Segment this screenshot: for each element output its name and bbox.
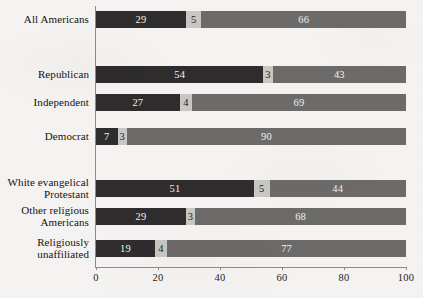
x-axis-tick-mark (158, 267, 159, 270)
bar-row: 19477 (96, 240, 406, 257)
category-label: Republican (38, 69, 89, 81)
bar-segment: 54 (96, 66, 263, 83)
bar-segment: 27 (96, 94, 180, 111)
bar-segment: 3 (263, 66, 272, 83)
bar-row: 7390 (96, 128, 406, 145)
y-axis-line (95, 6, 96, 268)
x-axis-tick-label: 40 (215, 272, 226, 283)
x-axis-tick-label: 80 (339, 272, 350, 283)
bar-row: 29566 (96, 11, 406, 28)
x-axis-tick-mark (282, 267, 283, 270)
bar-segment: 66 (201, 11, 406, 28)
category-label: Independent (34, 97, 89, 109)
bar-segment: 44 (270, 180, 406, 197)
x-axis-tick-mark (406, 267, 407, 270)
bar-segment: 19 (96, 240, 155, 257)
bar-segment: 29 (96, 208, 186, 225)
bar-segment: 3 (118, 128, 127, 145)
bar-row: 27469 (96, 94, 406, 111)
x-axis-tick-mark (344, 267, 345, 270)
stacked-bar-chart: 020406080100 All AmericansRepublicanInde… (0, 0, 423, 298)
bar-segment: 4 (155, 240, 167, 257)
x-axis-tick-label: 100 (398, 272, 414, 283)
category-label: White evangelical Protestant (8, 177, 89, 200)
bar-segment: 4 (180, 94, 192, 111)
category-label: Religiously unaffiliated (37, 237, 89, 260)
bar-segment: 68 (195, 208, 406, 225)
category-label: All Americans (24, 14, 89, 26)
x-axis-tick-mark (96, 267, 97, 270)
bar-row: 29368 (96, 208, 406, 225)
bar-segment: 3 (186, 208, 195, 225)
bar-segment: 69 (192, 94, 406, 111)
bar-segment: 90 (127, 128, 406, 145)
category-label: Other religious Americans (21, 205, 89, 228)
bar-segment: 43 (273, 66, 406, 83)
bar-segment: 29 (96, 11, 186, 28)
category-label: Democrat (45, 131, 89, 143)
bar-row: 51544 (96, 180, 406, 197)
bar-segment: 51 (96, 180, 254, 197)
x-axis-line (95, 267, 406, 268)
bar-segment: 7 (96, 128, 118, 145)
x-axis-tick-mark (220, 267, 221, 270)
x-axis-tick-label: 0 (93, 272, 98, 283)
bar-row: 54343 (96, 66, 406, 83)
bar-segment: 77 (167, 240, 406, 257)
x-axis-tick-label: 20 (153, 272, 164, 283)
x-axis-tick-label: 60 (277, 272, 288, 283)
bar-segment: 5 (254, 180, 270, 197)
bar-segment: 5 (186, 11, 202, 28)
